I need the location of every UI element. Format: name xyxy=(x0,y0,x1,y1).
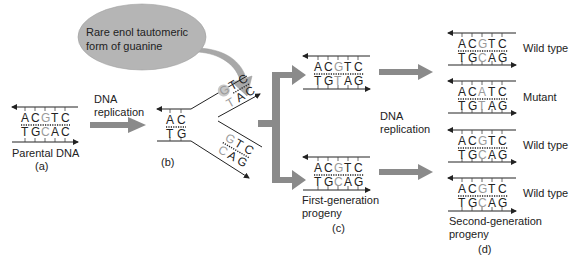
base: G xyxy=(235,154,250,171)
base: C xyxy=(243,83,258,100)
base: G xyxy=(498,51,507,65)
first-gen-upper-duplex: A C G T C T G T A G xyxy=(303,56,370,89)
panel-c-letter: (c) xyxy=(332,222,345,234)
base: T xyxy=(166,127,174,141)
base: G xyxy=(31,125,40,139)
panel-c-caption-line1: First-generation xyxy=(302,194,379,206)
base: T xyxy=(458,196,466,210)
callout-text-line2: form of guanine xyxy=(86,40,162,52)
base-highlighted: G xyxy=(478,134,487,148)
base: A xyxy=(314,161,322,175)
replication-arrows-2: DNA replication xyxy=(379,64,433,180)
row-label: Wild type xyxy=(523,187,568,199)
right-arrow-icon xyxy=(379,64,433,80)
base-highlighted: C xyxy=(478,51,487,65)
base: T xyxy=(344,60,352,74)
base: C xyxy=(498,182,507,196)
replication-label-line1: DNA xyxy=(94,93,118,105)
base: C xyxy=(177,113,186,127)
base: A xyxy=(166,113,174,127)
base: A xyxy=(458,37,466,51)
base: T xyxy=(488,182,496,196)
base: A xyxy=(458,85,466,99)
base: A xyxy=(488,99,496,113)
panel-c-first-generation: A C G T C T G T A G A C G T C T G C xyxy=(302,56,379,234)
right-arrow-icon xyxy=(90,117,146,133)
base: A xyxy=(488,148,496,162)
base: C xyxy=(468,85,477,99)
base: C xyxy=(468,134,477,148)
base: T xyxy=(314,74,322,88)
panel-a-parental-dna: A C G T C T G C A C Parental DNA (a) xyxy=(12,107,80,172)
base-highlighted: G xyxy=(41,111,50,125)
base: G xyxy=(468,196,477,210)
base: A xyxy=(458,182,466,196)
second-gen-duplex-wild-type-3: A C G T C T G C A G Wild type xyxy=(448,178,568,211)
panel-c-caption-line2: progeny xyxy=(302,207,342,219)
replication-label-line2: replication xyxy=(380,123,430,135)
base: G xyxy=(324,74,333,88)
base: C xyxy=(61,111,70,125)
base: G xyxy=(468,99,477,113)
second-gen-duplex-wild-type-2: A C G T C T G C A G Wild type xyxy=(448,130,568,162)
replication-label-line1: DNA xyxy=(380,110,404,122)
panel-d-letter: (d) xyxy=(478,243,491,255)
right-arrow-icon xyxy=(379,164,433,180)
base: C xyxy=(498,37,507,51)
panel-d-caption-line1: Second-generation xyxy=(449,215,542,227)
base: C xyxy=(354,60,363,74)
base: A xyxy=(344,175,352,189)
base: T xyxy=(458,99,466,113)
base: C xyxy=(354,161,363,175)
base: G xyxy=(468,148,477,162)
base-mutated: T xyxy=(478,99,486,113)
replication-arrow-1: DNA replication xyxy=(90,93,146,133)
base: A xyxy=(21,111,29,125)
base: T xyxy=(21,125,29,139)
base: A xyxy=(344,74,352,88)
panel-d-caption-line2: progeny xyxy=(449,228,489,240)
base-mispaired: T xyxy=(334,74,342,88)
base: C xyxy=(498,134,507,148)
base: G xyxy=(354,74,363,88)
row-label: Mutant xyxy=(523,91,557,103)
base: G xyxy=(177,127,186,141)
base: G xyxy=(498,196,507,210)
base-highlighted: C xyxy=(478,148,487,162)
second-gen-duplex-mutant: A C A T C T G T A G Mutant xyxy=(448,81,557,113)
base: A xyxy=(458,134,466,148)
base-highlighted: C xyxy=(478,196,487,210)
row-label: Wild type xyxy=(523,42,568,54)
base: C xyxy=(468,37,477,51)
second-gen-duplex-wild-type-1: A C G T C T G C A G Wild type xyxy=(448,33,568,65)
base-highlighted: G xyxy=(334,60,343,74)
base: T xyxy=(488,134,496,148)
panel-a-letter: (a) xyxy=(35,160,48,172)
base-mutated: A xyxy=(478,85,486,99)
base-highlighted: C xyxy=(41,125,50,139)
row-label: Wild type xyxy=(523,139,568,151)
base: C xyxy=(498,85,507,99)
base: T xyxy=(51,111,59,125)
base-highlighted: C xyxy=(334,175,343,189)
branch-vertical-bar xyxy=(272,72,280,183)
base: C xyxy=(31,111,40,125)
lower-fork-bases: G T C C A G xyxy=(216,130,257,170)
diagram-canvas: Rare enol tautomeric form of guanine A C… xyxy=(0,0,575,260)
base: T xyxy=(458,51,466,65)
callout-text-line1: Rare enol tautomeric xyxy=(86,26,189,38)
base: G xyxy=(498,99,507,113)
panel-b-letter: (b) xyxy=(161,156,174,168)
base-highlighted: G xyxy=(478,182,487,196)
base-highlighted: G xyxy=(334,161,343,175)
base: G xyxy=(468,51,477,65)
base: T xyxy=(344,161,352,175)
base: C xyxy=(324,161,333,175)
base: C xyxy=(324,60,333,74)
branch-arrow xyxy=(258,65,306,190)
base: A xyxy=(488,196,496,210)
base: T xyxy=(314,175,322,189)
replication-label-line2: replication xyxy=(94,106,144,118)
base: T xyxy=(488,85,496,99)
base: C xyxy=(61,125,70,139)
